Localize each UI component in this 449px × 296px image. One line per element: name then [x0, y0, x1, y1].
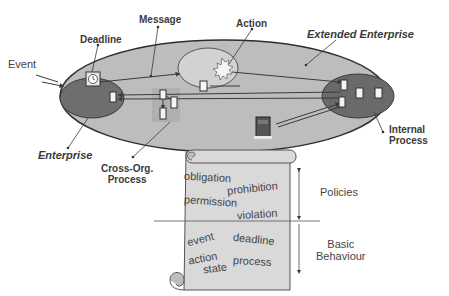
- action-ellipse: [178, 48, 238, 88]
- process-box: [160, 90, 166, 99]
- process-box: [160, 108, 166, 119]
- cross-org-process-label: Cross-Org. Process: [101, 163, 153, 185]
- diagram-canvas: [0, 0, 449, 296]
- term-process: process: [233, 254, 272, 268]
- event-arrow-icon: [36, 75, 62, 86]
- process-box: [339, 97, 345, 107]
- process-box: [200, 81, 207, 91]
- event-label: Event: [8, 58, 36, 70]
- action-label: Action: [236, 18, 267, 29]
- process-box: [375, 88, 382, 98]
- policies-layer-label: Policies: [320, 186, 358, 198]
- database-icon: [254, 117, 272, 139]
- term-obligation: obligation: [184, 170, 232, 184]
- process-box: [110, 92, 116, 102]
- process-box: [356, 88, 363, 98]
- extended-enterprise-diagram: Event Deadline Message Action Extended E…: [0, 0, 449, 296]
- enterprise-label: Enterprise: [38, 149, 92, 161]
- extended-enterprise-label: Extended Enterprise: [307, 28, 414, 40]
- internal-process-label: Internal Process: [389, 124, 428, 146]
- basic-behaviour-layer-label: Basic Behaviour: [316, 238, 366, 262]
- process-box: [171, 97, 177, 108]
- deadline-label: Deadline: [80, 34, 122, 45]
- process-box: [341, 80, 347, 90]
- message-label: Message: [139, 14, 181, 25]
- deadline-clock-icon: [86, 72, 100, 86]
